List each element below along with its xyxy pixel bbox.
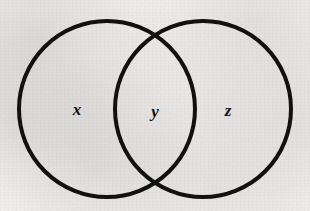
region-label-x: x (72, 100, 82, 119)
left-circle (19, 21, 195, 197)
venn-diagram-page: x y z (0, 0, 310, 211)
region-label-y: y (149, 102, 159, 121)
venn-diagram-figure: x y z (0, 0, 310, 211)
right-circle (115, 21, 291, 197)
region-label-z: z (224, 101, 232, 120)
